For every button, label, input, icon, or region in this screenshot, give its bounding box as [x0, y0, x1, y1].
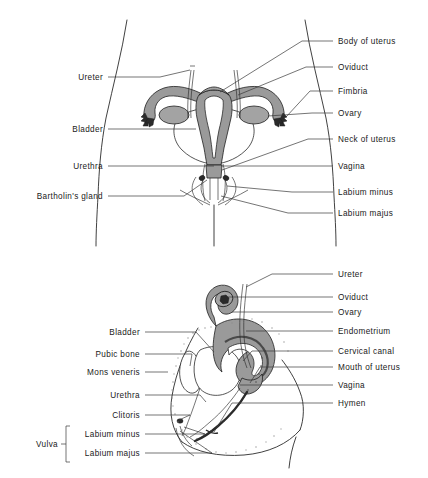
ovary-detail	[220, 295, 229, 304]
label-vulva: Vulva	[36, 440, 58, 449]
label-body-of-uterus: Body of uterus	[338, 37, 396, 46]
label-hymen: Hymen	[338, 399, 366, 408]
label-labium-minus-anterior: Labium minus	[338, 188, 393, 197]
anatomy-figure-svg: Ureter Bladder Urethra Bartholin's gland…	[0, 0, 428, 478]
label-oviduct-anterior: Oviduct	[338, 63, 369, 72]
label-urethra-anterior: Urethra	[73, 162, 103, 171]
label-ovary-sagittal: Ovary	[338, 308, 362, 317]
label-mouth-of-uterus: Mouth of uterus	[338, 363, 400, 372]
label-neck-of-uterus: Neck of uterus	[338, 135, 396, 144]
label-pubic-bone: Pubic bone	[96, 350, 141, 359]
neck-of-uterus	[206, 165, 222, 178]
label-ureter-sagittal: Ureter	[338, 270, 363, 279]
label-urethra-sagittal: Urethra	[110, 391, 140, 400]
label-endometrium: Endometrium	[338, 327, 391, 336]
label-mons-veneris: Mons veneris	[87, 368, 140, 377]
label-cervical-canal: Cervical canal	[338, 347, 394, 356]
label-bartholins-gland: Bartholin's gland	[37, 192, 103, 201]
label-bladder-sagittal: Bladder	[109, 328, 140, 337]
ovary-right	[239, 106, 269, 124]
label-clitoris: Clitoris	[112, 411, 140, 420]
label-ureter-anterior: Ureter	[78, 73, 103, 82]
label-fimbria: Fimbria	[338, 87, 368, 96]
label-vagina-anterior: Vagina	[338, 162, 365, 171]
label-labium-minus-sagittal: Labium minus	[85, 430, 140, 439]
label-oviduct-sagittal: Oviduct	[338, 293, 369, 302]
label-ovary-anterior: Ovary	[338, 109, 362, 118]
label-bladder-anterior: Bladder	[72, 125, 103, 134]
ovary-left	[159, 106, 189, 124]
label-labium-majus-anterior: Labium majus	[338, 209, 393, 218]
label-vagina-sagittal: Vagina	[338, 381, 365, 390]
anatomy-figure: Ureter Bladder Urethra Bartholin's gland…	[0, 0, 428, 478]
label-labium-majus-sagittal: Labium majus	[85, 449, 140, 458]
